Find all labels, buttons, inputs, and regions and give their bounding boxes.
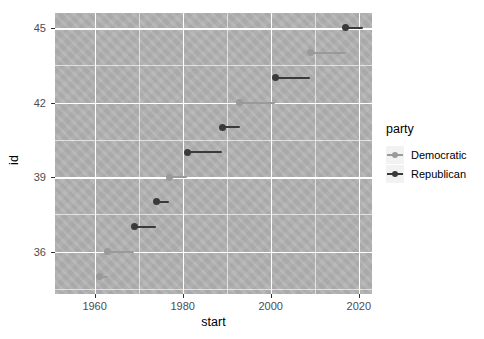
data-point — [104, 248, 111, 255]
y-tick-mark — [51, 177, 55, 178]
data-point — [96, 273, 103, 280]
x-tick-label: 2020 — [347, 300, 371, 312]
x-tick-mark — [271, 294, 272, 298]
data-point — [166, 174, 173, 181]
x-tick-label: 1980 — [170, 300, 194, 312]
y-tick-label: 45 — [24, 22, 46, 34]
gridline-y-major — [55, 252, 372, 254]
term-segment — [187, 151, 222, 153]
legend-items: DemocraticRepublican — [386, 145, 482, 183]
term-segment — [275, 77, 310, 79]
gridline-y-minor — [55, 65, 372, 66]
y-axis-title: id — [7, 130, 21, 190]
data-point — [307, 49, 314, 56]
data-point — [131, 223, 138, 230]
data-point — [236, 99, 243, 106]
gridline-y-minor — [55, 214, 372, 215]
x-tick-mark — [95, 294, 96, 298]
x-tick-mark — [359, 294, 360, 298]
legend-item[interactable]: Democratic — [386, 145, 482, 164]
y-tick-mark — [51, 252, 55, 253]
legend-title: party — [386, 122, 482, 136]
y-tick-label: 42 — [24, 97, 46, 109]
data-point — [219, 124, 226, 131]
plot-panel — [55, 13, 372, 294]
y-tick-mark — [51, 28, 55, 29]
chart-root: 1960198020002020 36394245 start id party… — [0, 0, 484, 339]
gridline-y-minor — [55, 289, 372, 290]
term-segment — [240, 102, 275, 104]
x-tick-mark — [183, 294, 184, 298]
gridline-y-major — [55, 28, 372, 30]
legend-key-icon — [386, 165, 404, 183]
gridline-y-major — [55, 177, 372, 179]
data-point — [342, 24, 349, 31]
y-tick-mark — [51, 103, 55, 104]
term-segment — [310, 52, 345, 54]
legend-item-label: Republican — [411, 168, 466, 180]
y-tick-label: 36 — [24, 246, 46, 258]
gridline-y-minor — [55, 140, 372, 141]
legend-item[interactable]: Republican — [386, 164, 482, 183]
x-tick-label: 1960 — [82, 300, 106, 312]
legend: party DemocraticRepublican — [386, 122, 482, 183]
x-tick-label: 2000 — [258, 300, 282, 312]
gridline-y-major — [55, 103, 372, 105]
legend-item-label: Democratic — [411, 149, 467, 161]
term-segment — [108, 251, 134, 253]
legend-key-icon — [386, 146, 404, 164]
data-point — [184, 149, 191, 156]
data-point — [272, 74, 279, 81]
y-tick-label: 39 — [24, 171, 46, 183]
x-axis-title: start — [55, 315, 372, 329]
data-point — [153, 198, 160, 205]
